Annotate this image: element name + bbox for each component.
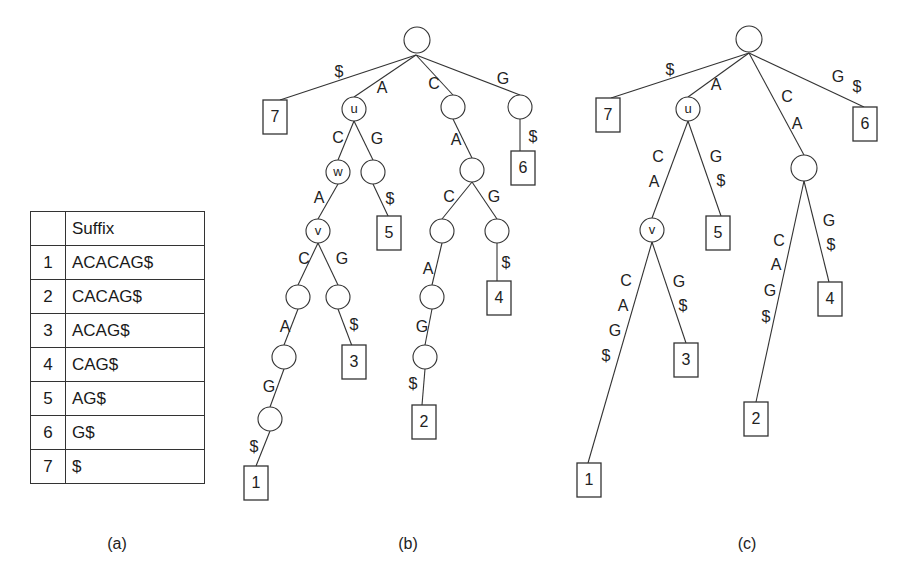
edge-label: G xyxy=(416,318,428,335)
tree-edge xyxy=(749,53,864,107)
edge-label: G xyxy=(488,188,500,205)
compressed-suffix-tree-c: $ACAG$CAG$CAG$G$CAG$G$uv7654321 xyxy=(577,26,877,497)
node-label: v xyxy=(649,222,656,237)
edge-label: G xyxy=(497,70,509,87)
edge-label: $ xyxy=(350,316,359,333)
leaf-label: 1 xyxy=(585,471,594,488)
edge-label: $ xyxy=(502,254,511,271)
internal-node xyxy=(430,219,454,243)
edge-label: A xyxy=(377,79,388,96)
edge-label: $ xyxy=(762,308,771,325)
leaf-label: 3 xyxy=(682,351,691,368)
edge-label: G xyxy=(609,322,621,339)
internal-node xyxy=(258,407,282,431)
internal-node xyxy=(404,27,430,53)
edge-label: A xyxy=(451,131,462,148)
edge-label: A xyxy=(314,189,325,206)
edge-label: G xyxy=(336,250,348,267)
tree-edge xyxy=(280,55,416,100)
tree-edge xyxy=(688,121,721,216)
node-label: w xyxy=(332,164,343,179)
edge-label: A xyxy=(423,260,434,277)
tree-edge xyxy=(432,243,442,285)
edge-label: G xyxy=(764,282,776,299)
caption-b: (b) xyxy=(398,535,418,552)
leaf-label: 5 xyxy=(714,224,723,241)
leaf-label: 4 xyxy=(495,289,504,306)
edge-label: A xyxy=(711,76,722,93)
edge-label: $ xyxy=(666,61,675,78)
leaf-label: 4 xyxy=(826,290,835,307)
edge-label: $ xyxy=(529,128,538,145)
edge-label: G xyxy=(832,68,844,85)
edge-label: $ xyxy=(827,236,836,253)
edge-label: A xyxy=(618,297,629,314)
leaf-label: 6 xyxy=(861,115,870,132)
leaf-label: 5 xyxy=(385,224,394,241)
internal-node xyxy=(441,95,465,119)
leaf-label: 7 xyxy=(604,106,613,123)
edge-label: $ xyxy=(853,78,862,95)
suffix-tree-diagrams: $ACGCGA$A$CGCGA$A$GG$$uwv7654321 $ACAG$C… xyxy=(0,0,904,579)
edge-label: $ xyxy=(386,190,395,207)
edge-label: C xyxy=(298,250,310,267)
internal-node xyxy=(420,285,444,309)
edge-label: $ xyxy=(717,172,726,189)
internal-node xyxy=(272,345,296,369)
internal-node xyxy=(413,345,437,369)
suffix-trie-b: $ACGCGA$A$CGCGA$A$GG$$uwv7654321 xyxy=(244,27,538,500)
leaf-label: 1 xyxy=(252,474,261,491)
node-label: v xyxy=(315,223,322,238)
leaf-label: 7 xyxy=(271,108,280,125)
edge-label: G xyxy=(673,273,685,290)
internal-node xyxy=(485,219,509,243)
caption-c: (c) xyxy=(738,535,757,552)
tree-edge xyxy=(652,121,688,218)
tree-edge xyxy=(422,369,425,405)
tree-edge xyxy=(652,242,686,343)
edge-label: G xyxy=(263,378,275,395)
edge-label: A xyxy=(649,173,660,190)
edge-label: $ xyxy=(409,375,418,392)
internal-node xyxy=(361,160,385,184)
edge-label: A xyxy=(280,318,291,335)
edge-label: C xyxy=(443,188,455,205)
edge-label: $ xyxy=(335,63,344,80)
node-label: u xyxy=(350,101,357,116)
edge-label: $ xyxy=(250,438,259,455)
edge-label: G xyxy=(710,148,722,165)
leaf-label: 6 xyxy=(519,159,528,176)
tree-edge xyxy=(804,181,829,282)
internal-node xyxy=(508,95,532,119)
edge-label: C xyxy=(620,272,632,289)
caption-a: (a) xyxy=(107,535,127,552)
internal-node xyxy=(326,285,350,309)
internal-node xyxy=(736,26,762,52)
edge-label: C xyxy=(332,129,344,146)
edge-label: G xyxy=(823,212,835,229)
edge-label: A xyxy=(771,256,782,273)
figure-captions: (a) (b) (c) xyxy=(107,535,756,552)
edge-label: C xyxy=(781,88,793,105)
tree-edge xyxy=(749,53,804,155)
tree-edge xyxy=(611,53,749,98)
edge-label: C xyxy=(652,148,664,165)
edge-label: A xyxy=(792,115,803,132)
internal-node xyxy=(286,285,310,309)
leaf-label: 3 xyxy=(350,353,359,370)
leaf-label: 2 xyxy=(420,413,429,430)
leaf-label: 2 xyxy=(752,410,761,427)
edge-label: $ xyxy=(679,297,688,314)
edge-label: C xyxy=(773,232,785,249)
internal-node xyxy=(791,155,817,181)
edge-label: $ xyxy=(602,347,611,364)
internal-node xyxy=(460,158,484,182)
node-label: u xyxy=(684,101,691,116)
edge-label: G xyxy=(371,130,383,147)
edge-label: C xyxy=(428,75,440,92)
